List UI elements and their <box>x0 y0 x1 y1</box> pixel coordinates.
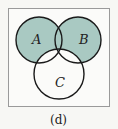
venn-diagram: A B C (d) <box>0 0 118 129</box>
label-a: A <box>31 32 41 47</box>
label-c: C <box>55 75 65 90</box>
caption: (d) <box>50 113 67 127</box>
label-b: B <box>78 32 89 47</box>
